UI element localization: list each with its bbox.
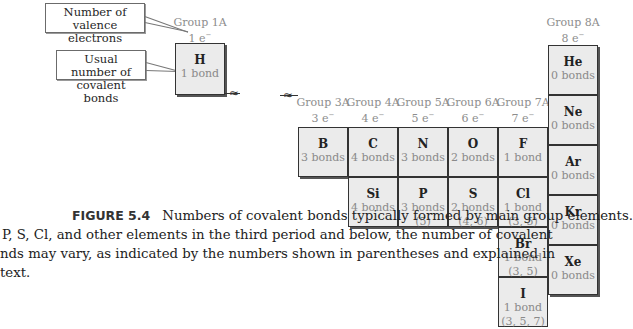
element-symbol: H [176,53,224,67]
group-8a-electrons: 8 e− [543,29,603,45]
caption-line-2-text: P, S, Cl, and other elements in the thir… [2,227,553,242]
element-cell-n: N 3 bonds [398,127,448,177]
element-bonds: 1 bond [499,301,547,315]
group-7a-electrons: 7 e− [493,109,553,125]
element-symbol: Cl [499,187,547,201]
element-bonds: 1 bond [499,151,547,165]
element-symbol: Ar [549,155,597,169]
group-8a-label: Group 8A [543,16,603,29]
element-symbol: P [399,187,447,201]
caption-line-3-text: nds may vary, as indicated by the number… [0,246,555,261]
element-cell-o: O 2 bonds [448,127,498,177]
element-cell-c: C 4 bonds [348,127,398,177]
element-bonds: 3 bonds [299,151,347,165]
element-cell-i: I 1 bond (3, 5, 7) [498,277,548,327]
element-alt-bonds: (3, 5, 7) [499,315,547,329]
group-8a-header: Group 8A 8 e− [543,16,603,45]
caption-line-4: text. [0,263,30,282]
valence-electrons-callout: Number of valence electrons [45,3,145,33]
element-bonds: 0 bonds [549,69,597,83]
element-symbol: C [349,137,397,151]
element-symbol: I [499,287,547,301]
caption-line-1: FIGURE 5.4Numbers of covalent bonds typi… [72,206,633,225]
element-symbol: Xe [549,255,597,269]
caption-line-4-text: text. [0,265,30,280]
element-cell-he: He 0 bonds [548,45,598,95]
element-symbol: N [399,137,447,151]
element-cell-xe: Xe 0 bonds [548,245,598,295]
element-symbol: Ne [549,105,597,119]
break-mark-left-icon: ≈ [229,87,239,99]
element-symbol: O [449,137,497,151]
group-7a-label: Group 7A [493,96,553,109]
element-cell-ar: Ar 0 bonds [548,145,598,195]
group-1a-label: Group 1A [170,16,230,29]
element-symbol: B [299,137,347,151]
element-bonds: 2 bonds [449,151,497,165]
element-cell-b: B 3 bonds [298,127,348,177]
group-1a-header: Group 1A 1 e− [170,16,230,45]
element-symbol: S [449,187,497,201]
element-symbol: He [549,55,597,69]
group-7a-header: Group 7A 7 e− [493,96,553,125]
element-bonds: 0 bonds [549,169,597,183]
valence-electrons-callout-text: Number of valence electrons [64,5,127,45]
covalent-bonds-callout: Usual number of covalent bonds [56,50,146,80]
covalent-bonds-callout-text: Usual number of covalent bonds [71,52,131,105]
element-bonds: 0 bonds [549,269,597,283]
bonds-leader-line-2 [146,70,178,72]
caption-line-1-text: Numbers of covalent bonds typically form… [162,208,633,223]
element-symbol: F [499,137,547,151]
element-cell-ne: Ne 0 bonds [548,95,598,145]
element-bonds: 0 bonds [549,119,597,133]
figure-label: FIGURE 5.4 [72,208,150,223]
element-bonds: 1 bond [176,67,224,81]
element-bonds: 3 bonds [399,151,447,165]
caption-line-3: nds may vary, as indicated by the number… [0,244,555,263]
element-bonds: 4 bonds [349,151,397,165]
element-symbol: Si [349,187,397,201]
element-cell-f: F 1 bond [498,127,548,177]
caption-line-2: P, S, Cl, and other elements in the thir… [2,225,553,244]
element-cell-h: H 1 bond [175,43,225,95]
break-mark-right-icon: ≈ [283,89,293,101]
